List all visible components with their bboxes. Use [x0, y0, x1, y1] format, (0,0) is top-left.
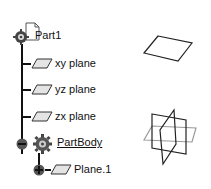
plane-icon: [31, 84, 53, 95]
tree-node-part1[interactable]: Part1: [9, 22, 79, 46]
plane-icon: [31, 58, 53, 69]
minus-icon: [15, 137, 29, 151]
viewport: [120, 0, 211, 189]
tree-node-zx-plane[interactable]: zx plane: [31, 109, 111, 124]
tree-node-label: Plane.1: [74, 163, 111, 176]
tree-node-label: xy plane: [55, 57, 96, 70]
tree-node-plane1[interactable]: Plane.1: [50, 162, 120, 177]
tree-node-label: zx plane: [55, 110, 96, 123]
three-planes-preview[interactable]: [142, 108, 200, 166]
tree-branch-line: [21, 116, 31, 118]
tree-node-label: yz plane: [55, 83, 96, 96]
tree-node-partbody[interactable]: PartBody: [31, 133, 121, 155]
tree-collapse-toggle[interactable]: [15, 137, 29, 151]
single-plane-preview[interactable]: [142, 34, 194, 64]
plus-icon: [32, 163, 46, 177]
tree-branch-line: [21, 63, 31, 65]
body-gear-icon: [31, 133, 53, 155]
tree-expand-toggle[interactable]: [32, 163, 46, 177]
plane-icon: [50, 164, 72, 175]
plane-icon: [31, 111, 53, 122]
tree-node-label: Part1: [35, 29, 61, 42]
tree-branch-line: [21, 89, 31, 91]
tree-node-yz-plane[interactable]: yz plane: [31, 82, 111, 97]
tree-node-label: PartBody: [57, 136, 102, 149]
tree-node-xy-plane[interactable]: xy plane: [31, 56, 111, 71]
